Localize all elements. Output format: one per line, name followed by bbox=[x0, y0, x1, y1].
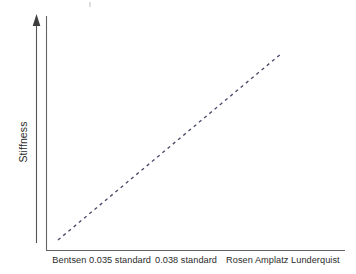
x-axis-label-group-1: Bentsen 0.035 standard bbox=[52, 254, 151, 266]
chart-canvas bbox=[0, 0, 356, 274]
scan-artifact-speck bbox=[89, 2, 91, 7]
y-axis-label: Stiffness bbox=[16, 82, 30, 202]
x-axis-label-group-2: 0.038 standard bbox=[155, 254, 217, 266]
y-axis-arrow-head-icon bbox=[33, 14, 41, 26]
x-axis-label-group-3: Rosen Amplatz Lunderquist bbox=[226, 254, 340, 266]
stiffness-chart-figure: Stiffness Bentsen 0.035 standard 0.038 s… bbox=[0, 0, 356, 274]
x-axis-label-row: Bentsen 0.035 standard 0.038 standard Ro… bbox=[46, 254, 346, 270]
stiffness-trend-line bbox=[58, 53, 282, 240]
